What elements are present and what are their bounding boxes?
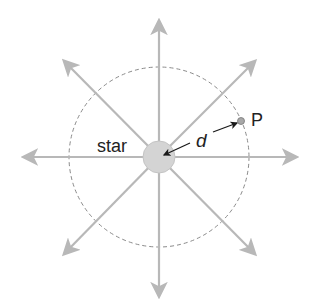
- inverse-square-diagram: star d P: [0, 0, 322, 308]
- point-label: P: [251, 110, 263, 130]
- ray-downright-arrow: [159, 157, 254, 253]
- point-p-marker: [238, 118, 245, 125]
- star-label: star: [97, 136, 127, 156]
- distance-arrow-to-point: [213, 123, 237, 132]
- star-circle: [143, 141, 175, 173]
- distance-label: d: [196, 130, 208, 151]
- ray-downleft-arrow: [65, 157, 159, 253]
